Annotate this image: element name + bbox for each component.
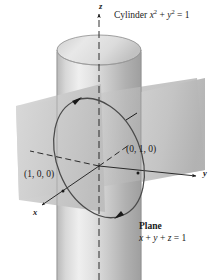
cylinder-top-cap — [57, 35, 141, 65]
figure-canvas — [0, 0, 219, 280]
math-figure: Cylinder x2 + y2 = 1 Plane x + y + z = 1… — [0, 0, 219, 280]
marker-point-100 — [62, 190, 65, 193]
marker-point-010 — [137, 172, 140, 175]
